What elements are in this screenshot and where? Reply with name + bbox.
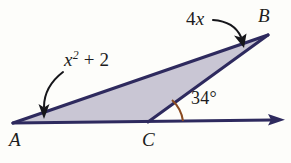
geometry-figure: A B C x2 + 2 4x 34° xyxy=(0,0,291,163)
side-ab-operator: + xyxy=(84,49,95,70)
side-ab-base: x xyxy=(64,49,73,70)
leader-arrow-curve-side-ab xyxy=(44,72,63,107)
leader-arrow-curve-angle-b xyxy=(213,20,241,37)
side-ab-exponent: 2 xyxy=(73,49,79,62)
vertex-label-a: A xyxy=(9,130,21,149)
angle-b-variable: x xyxy=(196,8,205,29)
side-ab-expression-label: x2 + 2 xyxy=(64,50,109,69)
angle-b-coefficient: 4 xyxy=(186,8,196,29)
vertex-label-b: B xyxy=(258,6,270,25)
side-ab-addend: 2 xyxy=(100,49,110,70)
vertex-label-c: C xyxy=(142,130,155,149)
exterior-angle-value-label: 34° xyxy=(191,89,217,107)
angle-b-expression-label: 4x xyxy=(186,9,204,28)
